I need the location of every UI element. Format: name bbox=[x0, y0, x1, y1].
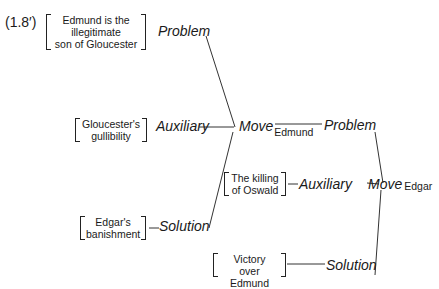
content-box-killing-oswald: The killing of Oswald bbox=[224, 172, 286, 196]
content-box-gloucester-gullibility: Gloucester's gullibility bbox=[75, 118, 147, 142]
content-line: banishment bbox=[80, 228, 146, 240]
content-line: Gloucester's bbox=[75, 118, 147, 130]
move-label: Move bbox=[368, 176, 402, 192]
content-box-edmund-illegitimate: Edmund is the illegitimate son of Glouce… bbox=[46, 14, 146, 50]
content-line: Victory bbox=[213, 253, 286, 265]
move-label: Move bbox=[239, 118, 273, 134]
content-line: The killing bbox=[224, 172, 286, 184]
content-line: of Oswald bbox=[224, 184, 286, 196]
content-line: over Edmund bbox=[213, 265, 286, 289]
content-line: Edgar's bbox=[80, 216, 146, 228]
node-move-edmund: MoveEdmund bbox=[239, 118, 312, 134]
node-auxiliary-right: Auxiliary bbox=[299, 176, 352, 192]
node-solution-left: Solution bbox=[159, 218, 210, 234]
node-problem-left: Problem bbox=[158, 23, 210, 39]
content-line: Edmund is the bbox=[46, 14, 146, 26]
move-subscript: Edmund bbox=[274, 126, 313, 138]
content-box-victory-edmund: Victory over Edmund bbox=[213, 253, 286, 277]
move-subscript: Edgar bbox=[404, 180, 432, 192]
node-auxiliary-left: Auxiliary bbox=[156, 118, 209, 134]
node-problem-right: Problem bbox=[324, 117, 376, 133]
node-move-edgar: MoveEdgar bbox=[368, 176, 430, 192]
node-solution-right: Solution bbox=[326, 257, 377, 273]
edge-problem-move-edmund bbox=[206, 36, 235, 127]
content-box-edgar-banishment: Edgar's banishment bbox=[80, 216, 146, 240]
content-line: son of Gloucester bbox=[46, 38, 146, 50]
content-line: illegitimate bbox=[46, 26, 146, 38]
content-line: gullibility bbox=[75, 130, 147, 142]
figure-label: (1.8′) bbox=[5, 14, 36, 30]
